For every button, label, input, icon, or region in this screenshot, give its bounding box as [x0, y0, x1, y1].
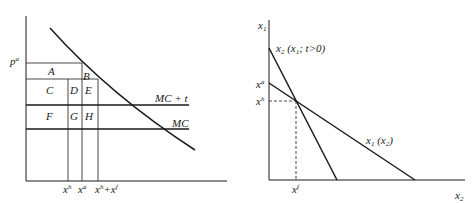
xf-x-tick-label: xf: [292, 184, 299, 195]
xa-tick-label: xa: [78, 184, 86, 195]
shallow-line-label: x1 (x2): [366, 135, 393, 148]
mc-label: MC: [172, 118, 189, 129]
area-e-label: E: [85, 85, 92, 96]
diagram-lines: [0, 0, 476, 203]
area-c-label: C: [46, 85, 53, 96]
area-b-label: B: [83, 71, 90, 82]
area-f-label: F: [46, 111, 53, 122]
mc-plus-t-label: MC + t: [155, 93, 187, 104]
xh-tick-label: xh: [63, 184, 71, 195]
area-h-label: H: [85, 111, 93, 122]
figure: pa A B C D E F G H MC + t MC xh xa xh+xf…: [0, 0, 476, 203]
area-d-label: D: [70, 85, 78, 96]
xa-y-tick-label: xa: [256, 79, 264, 90]
xh-y-tick-label: xh: [256, 96, 264, 107]
pa-label: pa: [10, 56, 19, 67]
steep-line-label: x2 (x1; t>0): [276, 43, 325, 56]
x2-axis-label: x2: [455, 190, 463, 203]
steep-line: [269, 48, 337, 180]
shallow-line: [269, 83, 415, 180]
area-a-label: A: [48, 66, 55, 77]
xh-plus-xf-tick-label: xh+xf: [95, 184, 118, 195]
x1-axis-label: x1: [258, 20, 266, 33]
area-g-label: G: [70, 111, 78, 122]
